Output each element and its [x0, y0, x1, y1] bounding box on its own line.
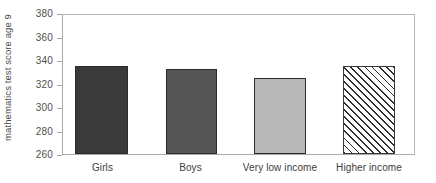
bar-higher-income: [343, 66, 395, 154]
y-tick-label: 320: [36, 78, 53, 92]
y-tick-label: 300: [36, 101, 53, 115]
y-axis-title: mathematics test score age 9: [0, 0, 16, 155]
y-tick-label: 260: [36, 148, 53, 162]
bar-very-low-income: [254, 78, 306, 154]
x-category-label-girls: Girls: [62, 161, 143, 175]
y-tick-label: 380: [36, 7, 53, 21]
x-category-label-boys: Boys: [150, 161, 231, 175]
y-tick-label: 340: [36, 54, 53, 68]
x-category-label-very-low-income: Very low income: [237, 161, 323, 175]
bar-boys: [166, 69, 217, 154]
bar-chart: mathematics test score age 9 380 360 340…: [0, 0, 436, 183]
y-tick-label: 360: [36, 31, 53, 45]
x-category-label-higher-income: Higher income: [326, 161, 412, 175]
y-tick-label: 280: [36, 125, 53, 139]
plot-area: [62, 14, 415, 155]
y-tick-mark: [57, 155, 62, 156]
bar-girls: [75, 66, 128, 154]
